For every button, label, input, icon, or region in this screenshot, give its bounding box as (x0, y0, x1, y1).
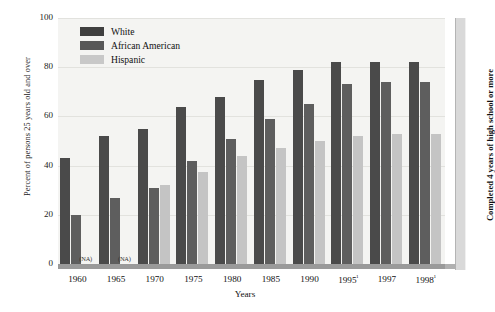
na-annotation: (NA) (118, 255, 131, 262)
bar (265, 119, 275, 264)
legend-swatch (80, 41, 104, 50)
bar (160, 185, 170, 264)
bar (420, 82, 430, 264)
y-axis-title-right: Completed 4 years of high school or more (485, 18, 495, 273)
legend-item: Hispanic (80, 53, 180, 66)
legend-label: Hispanic (111, 54, 145, 65)
bar-group (290, 18, 329, 264)
x-axis-tick-label: 1985 (252, 274, 291, 284)
bar (315, 141, 325, 264)
x-axis-tick-label: 1997 (368, 274, 407, 284)
chart-legend: WhiteAfrican AmericanHispanic (80, 25, 180, 67)
bar (138, 129, 148, 264)
bar (409, 62, 419, 264)
bar (215, 97, 225, 264)
bar (99, 136, 109, 264)
bar-group (252, 18, 291, 264)
axis-baseline-edge (445, 264, 456, 269)
bar (276, 148, 286, 264)
right-side-band (455, 18, 466, 270)
bar (187, 161, 197, 264)
bar (198, 172, 208, 264)
bar (176, 107, 186, 264)
legend-item: African American (80, 39, 180, 52)
legend-swatch (80, 27, 104, 36)
bar (431, 134, 441, 264)
y-axis-tick-label: 100 (13, 12, 53, 22)
bar (304, 104, 314, 264)
x-axis-tick-label: 1990 (290, 274, 329, 284)
bar-group (213, 18, 252, 264)
bar (392, 134, 402, 264)
bar (226, 139, 236, 264)
axis-baseline (58, 264, 445, 269)
x-axis-tick-label: 1970 (135, 274, 174, 284)
bar-group (329, 18, 368, 264)
x-axis-tick-label: 1995¹ (329, 274, 368, 285)
y-axis-tick-label: 0 (13, 258, 53, 268)
bar (331, 62, 341, 264)
bar (149, 188, 159, 264)
x-axis-tick-label: 1960 (58, 274, 97, 284)
bar-group (406, 18, 445, 264)
y-axis-title-left: Percent of persons 25 years old and over (23, 17, 32, 237)
bar (60, 158, 70, 264)
legend-swatch (80, 55, 104, 64)
bar (254, 80, 264, 265)
x-axis-tick-label: 1975 (174, 274, 213, 284)
bar (342, 84, 352, 264)
y-axis-tick-label: 80 (13, 61, 53, 71)
legend-label: African American (111, 40, 180, 51)
bar (293, 70, 303, 264)
x-axis-tick-label: 1980 (213, 274, 252, 284)
bar-group (368, 18, 407, 264)
y-axis-tick-label: 60 (13, 110, 53, 120)
x-axis-title: Years (0, 289, 490, 299)
legend-label: White (111, 26, 134, 37)
bar (353, 136, 363, 264)
x-axis-tick-label: 1965 (97, 274, 136, 284)
na-annotation: (NA) (79, 255, 92, 262)
x-axis-tick-label: 1998¹ (406, 274, 445, 285)
bar (381, 82, 391, 264)
bar (237, 156, 247, 264)
legend-item: White (80, 25, 180, 38)
y-axis-tick-label: 20 (13, 209, 53, 219)
bar (370, 62, 380, 264)
y-axis-tick-label: 40 (13, 160, 53, 170)
